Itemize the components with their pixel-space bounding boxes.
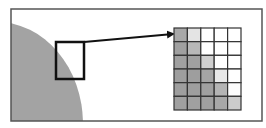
grid-cell bbox=[187, 96, 200, 110]
grid-cell bbox=[201, 55, 214, 69]
grid-cell bbox=[228, 83, 241, 97]
grid-cell bbox=[214, 42, 227, 56]
grid-cell bbox=[187, 55, 200, 69]
grid-cell bbox=[187, 28, 200, 42]
grid-cell bbox=[228, 55, 241, 69]
grid-cell bbox=[174, 28, 187, 42]
grid-cell bbox=[174, 96, 187, 110]
grid-cell bbox=[187, 83, 200, 97]
grid-cell bbox=[214, 83, 227, 97]
grid-cell bbox=[187, 69, 200, 83]
grid-cell bbox=[174, 42, 187, 56]
grid-cell bbox=[228, 42, 241, 56]
grid-cell bbox=[201, 28, 214, 42]
grid-cell bbox=[228, 28, 241, 42]
grid-cell bbox=[214, 55, 227, 69]
grid-cell bbox=[174, 69, 187, 83]
grid-cell bbox=[201, 96, 214, 110]
grid-cell bbox=[214, 28, 227, 42]
zoom-diagram bbox=[0, 0, 266, 128]
pixel-grid bbox=[174, 28, 241, 110]
grid-cell bbox=[214, 96, 227, 110]
grid-cell bbox=[174, 83, 187, 97]
grid-cell bbox=[187, 42, 200, 56]
grid-cell bbox=[228, 69, 241, 83]
grid-cell bbox=[228, 96, 241, 110]
grid-cell bbox=[174, 55, 187, 69]
grid-cell bbox=[214, 69, 227, 83]
grid-cell bbox=[201, 83, 214, 97]
grid-cell bbox=[201, 69, 214, 83]
grid-cell bbox=[201, 42, 214, 56]
